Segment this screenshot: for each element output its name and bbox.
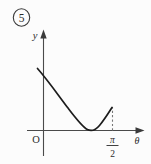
y-axis-label: y [32,30,38,41]
x-axis-arrowhead [136,127,145,133]
item-number-badge: 5 [13,9,29,27]
figure-container: 5 y θ O π 2 [0,0,151,164]
tick-numerator: π [110,135,115,145]
tick-denominator: 2 [110,149,115,159]
item-number-text: 5 [19,12,25,24]
x-axis-label: θ [135,135,140,146]
x-tick-label-pi-over-2: π 2 [107,135,119,159]
y-axis-arrowhead [40,30,46,39]
origin-label: O [32,134,40,145]
graph-svg: 5 y θ O π 2 [0,0,151,164]
function-curve [38,69,113,131]
